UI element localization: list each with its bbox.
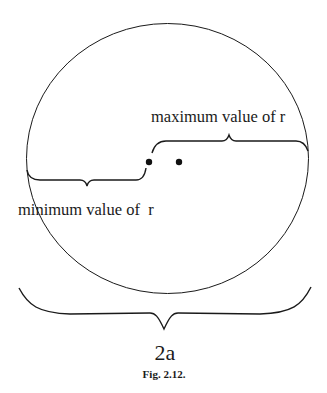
maximum-r-label: maximum value of r (151, 107, 286, 126)
orbit-circle (27, 24, 309, 294)
focus-dot-right (176, 159, 182, 165)
diameter-label: 2a (155, 340, 176, 365)
figure-diagram: maximum value of r minimum value of r 2a… (0, 0, 327, 393)
minimum-r-brace (27, 168, 146, 186)
focus-dot-left (146, 159, 152, 165)
maximum-r-brace (152, 135, 308, 153)
figure-caption: Fig. 2.12. (143, 368, 186, 380)
minimum-r-label: minimum value of r (18, 200, 154, 219)
